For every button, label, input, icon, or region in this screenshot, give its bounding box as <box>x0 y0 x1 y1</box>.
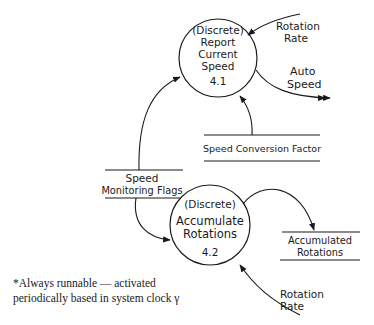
data-flow-diagram: (Discrete) Report Current Speed 4.1 (Dis… <box>0 0 374 325</box>
store-speed-monitoring-flags-label-line2: Monitoring Flags <box>101 185 182 196</box>
flow-flags-to-4-1 <box>139 77 180 170</box>
store-speed-monitoring-flags-label-line1: Speed <box>126 172 159 184</box>
footnote-mark: γ <box>174 292 179 304</box>
process-4-2-number: 4.2 <box>202 246 219 258</box>
footnote-line1: *Always runnable — activated <box>13 276 213 291</box>
process-4-2-qualifier: (Discrete) <box>184 198 236 210</box>
flow-rotation-rate-4-2: Rotation Rate <box>240 265 324 315</box>
process-4-2-label-line1: Accumulate <box>176 214 244 228</box>
store-accumulated-rotations: Accumulated Rotations <box>280 232 360 260</box>
process-4-1-label-line1: Report <box>201 36 236 48</box>
process-4-1-label-line2: Current <box>198 48 237 60</box>
flow-rotation-rate-4-1: Rotation Rate <box>248 14 320 44</box>
flow-rotation-rate-4-1-label-line1: Rotation <box>276 20 320 32</box>
footnote: *Always runnable — activated periodicall… <box>13 276 213 306</box>
flow-conversion-to-4-1 <box>240 96 252 135</box>
store-speed-conversion-factor: Speed Conversion Factor <box>203 135 321 161</box>
process-4-2: (Discrete) Accumulate Rotations 4.2 <box>170 185 250 265</box>
flow-auto-speed-label-line2: Speed <box>287 78 321 91</box>
flow-rotation-rate-4-2-label-line1: Rotation <box>280 288 324 300</box>
store-accumulated-rotations-label-line1: Accumulated <box>288 235 352 246</box>
flow-rotation-rate-4-2-label-line2: Rate <box>280 300 304 312</box>
flow-flags-to-4-2 <box>135 198 170 240</box>
process-4-1-label-line3: Speed <box>202 60 235 72</box>
flow-rotation-rate-4-1-label-line2: Rate <box>284 32 308 44</box>
store-accumulated-rotations-label-line2: Rotations <box>297 247 343 258</box>
store-speed-monitoring-flags: Speed Monitoring Flags <box>101 170 183 198</box>
footnote-line2: periodically based in system clock <box>13 292 171 304</box>
process-4-1-qualifier: (Discrete) <box>192 24 244 36</box>
footnote-line2-wrap: periodically based in system clock γ <box>13 291 213 306</box>
store-speed-conversion-factor-label: Speed Conversion Factor <box>203 143 321 154</box>
process-4-1: (Discrete) Report Current Speed 4.1 <box>179 19 257 97</box>
process-4-1-number: 4.1 <box>210 75 227 87</box>
flow-auto-speed: Auto Speed <box>256 65 330 101</box>
process-4-2-label-line2: Rotations <box>183 227 237 241</box>
flow-auto-speed-label-line1: Auto <box>290 65 316 78</box>
flow-4-2-to-accumulated <box>243 189 314 230</box>
